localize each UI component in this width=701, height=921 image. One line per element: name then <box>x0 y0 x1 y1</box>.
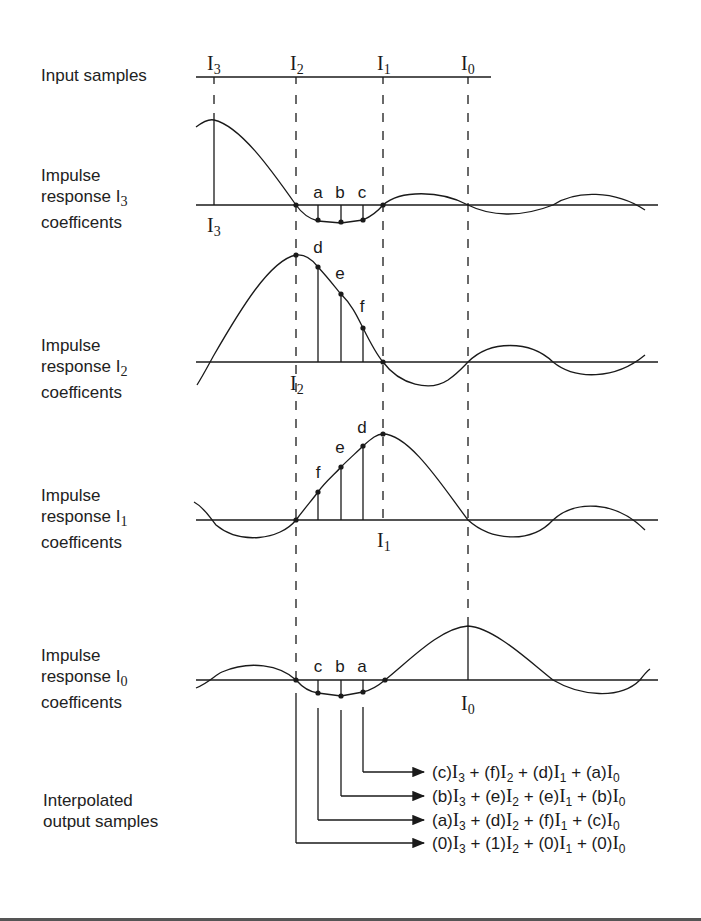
coef-row-I1-0: f <box>316 463 321 482</box>
marker-row-I3: I3 <box>207 214 221 239</box>
coef-row-I2-0: d <box>313 238 322 257</box>
curve-row-I1 <box>194 434 645 538</box>
coef-row-I3-1: b <box>335 183 344 202</box>
marker-row-I1: I1 <box>377 529 391 554</box>
marker-row-I0: I0 <box>461 692 475 717</box>
coef-row-I0-2: a <box>357 657 367 676</box>
curve-row-I0 <box>196 626 650 696</box>
input-label-I1: I1 <box>377 52 391 77</box>
coef-row-I0-1: b <box>335 657 344 676</box>
equation-3: (a)I3 + (d)I2 + (f)I1 + (c)I0 <box>432 809 620 833</box>
equation-1: (c)I3 + (f)I2 + (d)I1 + (a)I0 <box>432 761 620 785</box>
input-label-I2: I2 <box>290 52 304 77</box>
coef-row-I2-2: f <box>360 297 365 316</box>
marker-row-I2: I2 <box>290 372 304 397</box>
curve-row-I2 <box>197 255 645 386</box>
equation-4: (0)I3 + (1)I2 + (0)I1 + (0)I0 <box>432 832 626 856</box>
coef-row-I3-0: a <box>313 183 323 202</box>
coef-row-I3-2: c <box>358 183 367 202</box>
coef-row-I2-1: e <box>335 264 344 283</box>
curve-row-I3 <box>196 120 645 223</box>
input-label-I3: I3 <box>207 52 221 77</box>
input-label-I0: I0 <box>461 52 475 77</box>
coef-row-I0-0: c <box>314 657 323 676</box>
coef-row-I1-2: d <box>357 418 366 437</box>
equation-2: (b)I3 + (e)I2 + (e)I1 + (b)I0 <box>432 785 626 809</box>
coef-row-I1-1: e <box>335 438 344 457</box>
output-equations: (c)I3 + (f)I2 + (d)I1 + (a)I0 (b)I3 + (e… <box>432 761 626 856</box>
interpolation-diagram: I3 I2 I1 I0 I3 I2 I1 I0 a b c d e f f e … <box>0 0 701 921</box>
